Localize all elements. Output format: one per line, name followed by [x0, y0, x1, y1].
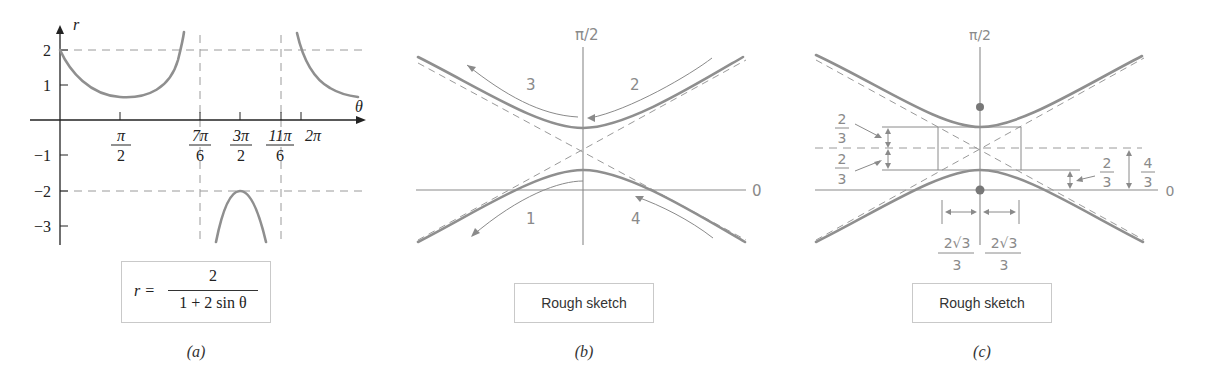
caption-a: (a) [166, 343, 226, 361]
theta-axis-arrow-icon [356, 116, 366, 124]
curve-branch-2 [216, 191, 266, 242]
svg-text:π: π [117, 127, 126, 144]
panel-a-labels: r θ 2 1 −1 −2 −3 π 2 7π 6 3π 2 11π 6 2π [34, 16, 363, 235]
formula-denominator: 1 + 2 sin θ [168, 294, 258, 312]
curve-branch-3 [297, 33, 358, 97]
formula: r = 2 1 + 2 sin θ [122, 262, 270, 322]
y-tick-minus-1: −1 [34, 147, 51, 164]
c-upper-branch [816, 55, 1142, 127]
svg-text:7π: 7π [192, 127, 209, 144]
svg-text:2: 2 [237, 147, 245, 164]
svg-text:2√3: 2√3 [991, 235, 1018, 251]
b-path-label-2: 2 [630, 76, 640, 94]
x-tick-11pi-6: 11π 6 [266, 127, 294, 164]
b-path-label-3: 3 [526, 76, 536, 94]
svg-text:2: 2 [1103, 155, 1112, 171]
svg-text:3: 3 [1103, 174, 1112, 190]
rough-sketch-label-c: Rough sketch [912, 283, 1052, 323]
svg-text:2: 2 [117, 147, 125, 164]
y-tick-minus-3: −3 [34, 218, 51, 235]
svg-text:3: 3 [838, 171, 847, 187]
svg-text:3: 3 [1144, 174, 1153, 190]
panel-c-sketch: π/2 0 2 3 2 3 2 3 4 3 [815, 27, 1174, 273]
b-label-pi-2: π/2 [575, 26, 599, 44]
c-label-pi-2: π/2 [969, 27, 991, 43]
svg-text:3: 3 [953, 257, 962, 273]
x-tick-pi-2: π 2 [111, 127, 131, 164]
c-dim-left-upper: 2 3 [835, 111, 849, 146]
b-arrow-2-icon [587, 114, 595, 122]
y-tick-minus-2: −2 [34, 183, 51, 200]
b-label-0: 0 [752, 182, 762, 200]
svg-text:3: 3 [1000, 257, 1009, 273]
panel-b-sketch: π/2 0 1 2 3 4 [416, 26, 762, 245]
svg-text:4: 4 [1144, 155, 1153, 171]
theta-axis-label: θ [355, 98, 363, 115]
c-dim-bottom-left: 2√3 3 [938, 235, 974, 273]
b-path-label-4: 4 [631, 210, 641, 228]
svg-text:2: 2 [838, 111, 847, 127]
r-axis-label: r [73, 16, 80, 33]
formula-box: r = 2 1 + 2 sin θ [121, 261, 271, 323]
caption-c: (c) [952, 343, 1012, 361]
c-dim-right-big: 4 3 [1141, 155, 1155, 190]
c-focus-origin [976, 186, 985, 195]
b-arrow-1-icon [471, 228, 480, 237]
x-tick-3pi-2: 3π 2 [230, 127, 252, 164]
b-path-label-1: 1 [526, 210, 536, 228]
svg-text:11π: 11π [269, 127, 293, 144]
formula-lhs: r = [134, 282, 155, 300]
svg-text:6: 6 [196, 147, 204, 164]
b-upper-branch [418, 57, 743, 128]
svg-text:6: 6 [276, 147, 284, 164]
y-tick-1: 1 [43, 77, 51, 94]
rough-sketch-label-b: Rough sketch [514, 283, 654, 323]
svg-text:2: 2 [838, 151, 847, 167]
formula-numerator: 2 [168, 267, 258, 285]
svg-text:3: 3 [838, 130, 847, 146]
r-axis-arrow-icon [56, 25, 64, 34]
c-dim-right-small: 2 3 [1100, 155, 1114, 190]
y-tick-2: 2 [43, 42, 51, 59]
c-dim-bottom-right: 2√3 3 [985, 235, 1021, 273]
formula-fraction-bar [168, 290, 258, 291]
x-tick-2pi: 2π [305, 127, 322, 144]
c-focus-upper [976, 103, 984, 111]
c-dim-left-lower: 2 3 [835, 151, 849, 187]
caption-b: (b) [554, 343, 614, 361]
svg-text:3π: 3π [232, 127, 250, 144]
svg-text:2√3: 2√3 [944, 235, 971, 251]
x-tick-7pi-6: 7π 6 [189, 127, 211, 164]
c-label-0: 0 [1166, 183, 1175, 199]
curve-branch-1 [60, 32, 184, 97]
